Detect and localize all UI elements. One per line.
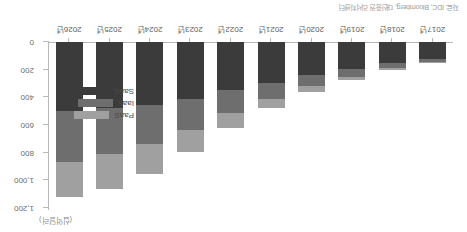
y-axis-tick-label: 600 xyxy=(2,121,38,130)
bar-group xyxy=(177,42,204,152)
bar-segment-iaas xyxy=(419,59,446,62)
y-axis-tick xyxy=(43,152,48,153)
y-axis-tick xyxy=(43,124,48,125)
y-axis-tick-label: 200 xyxy=(2,65,38,74)
bar-segment-iaas xyxy=(137,105,164,144)
x-axis-tick xyxy=(189,38,190,42)
legend-label: SaaS xyxy=(114,87,134,96)
bar-segment-paas xyxy=(96,154,123,189)
legend-swatch-icon xyxy=(74,88,109,96)
x-axis-label: 2026년 xyxy=(57,25,82,36)
x-axis-tick xyxy=(270,38,271,42)
x-axis-label: 2018년 xyxy=(380,25,405,36)
y-axis-tick xyxy=(43,96,48,97)
y-axis-tick-label: 1,000 xyxy=(2,176,38,185)
bar-segment-paas xyxy=(258,99,285,108)
source-note: 자료: IDC, Bloomberg, 대신증권 리서치센터 xyxy=(339,3,459,13)
y-axis-tick xyxy=(43,69,48,70)
legend-label: IaaS xyxy=(118,99,134,108)
bar-series-container xyxy=(49,42,453,208)
bar-segment-iaas xyxy=(339,69,366,77)
bar-segment-iaas xyxy=(177,99,204,130)
legend-label: PaaS xyxy=(114,111,134,120)
y-axis-tick-label: 400 xyxy=(2,93,38,102)
x-axis-tick xyxy=(432,38,433,42)
bar-group xyxy=(419,42,446,63)
y-axis-tick xyxy=(43,179,48,180)
x-axis-tick xyxy=(109,38,110,42)
x-axis-tick xyxy=(391,38,392,42)
x-axis-label: 2019년 xyxy=(340,25,365,36)
bar-segment-saas xyxy=(258,42,285,83)
bar-segment-saas xyxy=(217,42,244,90)
legend-swatch-icon xyxy=(78,100,113,108)
bar-segment-saas xyxy=(298,42,325,75)
bar-group xyxy=(379,42,406,70)
x-axis-label: 2020년 xyxy=(299,25,324,36)
y-axis-tick xyxy=(43,207,48,208)
bar-segment-paas xyxy=(56,162,83,197)
bar-segment-saas xyxy=(379,42,406,63)
x-axis-tick xyxy=(351,38,352,42)
bar-group xyxy=(298,42,325,92)
bar-segment-paas xyxy=(137,144,164,174)
x-axis-tick xyxy=(149,38,150,42)
chart-legend: SaaSIaaSPaaS xyxy=(74,87,134,120)
x-axis-label: 2017년 xyxy=(420,25,445,36)
legend-item-paas[interactable]: PaaS xyxy=(74,111,134,120)
legend-item-saas[interactable]: SaaS xyxy=(74,87,134,96)
bar-segment-paas xyxy=(298,86,325,92)
x-axis-label: 2024년 xyxy=(138,25,163,36)
chart-figure: 자료: IDC, Bloomberg, 대신증권 리서치센터 (십억달러) 02… xyxy=(0,0,467,232)
bar-segment-iaas xyxy=(217,90,244,113)
x-axis-label: 2022년 xyxy=(218,25,243,36)
bar-segment-saas xyxy=(177,42,204,99)
bar-group xyxy=(137,42,164,174)
bar-segment-paas xyxy=(419,62,446,63)
bar-segment-saas xyxy=(419,42,446,59)
x-axis-label: 2023년 xyxy=(178,25,203,36)
y-axis-tick xyxy=(43,41,48,42)
y-axis-tick-label: 1,200 xyxy=(2,204,38,213)
x-axis-label: 2021년 xyxy=(259,25,284,36)
bar-segment-paas xyxy=(177,130,204,152)
bar-group xyxy=(217,42,244,128)
bar-group xyxy=(339,42,366,80)
bar-group xyxy=(258,42,285,108)
y-axis-unit-label: (십억달러) xyxy=(39,216,72,227)
bar-segment-paas xyxy=(379,68,406,70)
plot-area: 02004006008001,0001,200 2017년2018년2019년2… xyxy=(49,42,453,208)
x-axis-tick xyxy=(68,38,69,42)
bar-segment-paas xyxy=(339,77,366,80)
legend-item-iaas[interactable]: IaaS xyxy=(74,99,134,108)
bar-segment-paas xyxy=(217,113,244,128)
x-axis-tick xyxy=(311,38,312,42)
x-axis-label: 2025년 xyxy=(97,25,122,36)
bar-segment-saas xyxy=(339,42,366,69)
bar-segment-iaas xyxy=(379,63,406,68)
legend-swatch-icon xyxy=(74,112,109,120)
bar-segment-saas xyxy=(137,42,164,105)
bar-segment-iaas xyxy=(298,75,325,86)
bar-segment-iaas xyxy=(258,83,285,99)
x-axis-tick xyxy=(230,38,231,42)
y-axis-tick-label: 800 xyxy=(2,148,38,157)
y-axis-tick-label: 0 xyxy=(2,38,38,47)
